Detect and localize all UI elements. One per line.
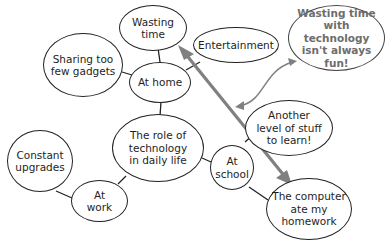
arrowhead-left-icon	[235, 101, 244, 110]
node-entertainment: Entertainment	[193, 27, 279, 63]
node-label: Wasting time with technology isn't alway…	[289, 7, 384, 70]
node-wasting-time: Wasting time	[119, 5, 187, 51]
node-label: Sharing too few gadgets	[51, 53, 116, 78]
node-at-school: At school	[210, 145, 254, 190]
node-label: The computer ate my homework	[272, 190, 346, 228]
node-another-level: Another level of stuff to learn!	[245, 100, 333, 156]
node-computer-homework: The computer ate my homework	[266, 178, 352, 240]
edge-work-upgrades	[56, 191, 72, 198]
node-label: Wasting time	[132, 16, 174, 41]
node-conclusion: Wasting time with technology isn't alway…	[288, 5, 385, 71]
node-label: Another level of stuff to learn!	[256, 109, 321, 147]
node-label: Entertainment	[198, 39, 274, 52]
node-label: At work	[87, 189, 112, 214]
node-label: At home	[138, 76, 182, 89]
node-at-home: At home	[129, 62, 191, 103]
node-label: The role of technology in daily life	[129, 129, 187, 167]
arrowhead-up-icon	[178, 45, 194, 60]
edge-school-homework	[249, 187, 268, 200]
node-constant-upgrades: Constant upgrades	[7, 130, 73, 192]
node-label: At school	[215, 155, 249, 180]
node-label: Constant upgrades	[15, 149, 64, 174]
edge-center-work	[118, 176, 126, 184]
node-at-work: At work	[71, 180, 128, 222]
node-center-topic: The role of technology in daily life	[112, 114, 204, 182]
node-sharing-gadgets: Sharing too few gadgets	[43, 33, 123, 97]
